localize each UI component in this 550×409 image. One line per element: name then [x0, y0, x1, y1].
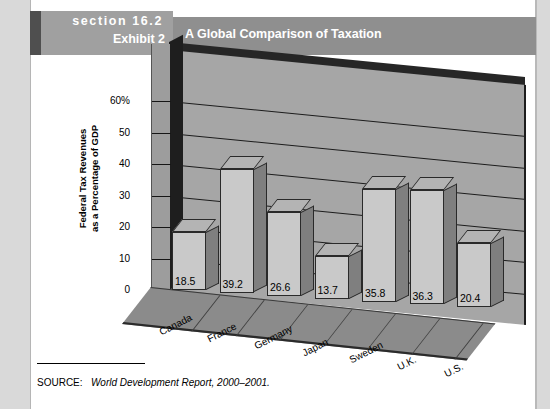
plot-left-wall	[151, 44, 170, 291]
bar-value-label: 26.6	[270, 281, 290, 293]
bar-value-label: 20.4	[460, 292, 480, 304]
bar-side-face	[396, 182, 409, 301]
bar-france	[220, 169, 254, 292]
bar-value-label: 36.3	[413, 290, 433, 302]
header-accent-stripe	[30, 11, 41, 55]
floor-divider	[235, 300, 264, 336]
y-tick-label: 0	[90, 284, 130, 295]
bar-value-label: 35.8	[365, 287, 385, 299]
bar-uk	[410, 190, 444, 304]
gridline	[169, 101, 524, 137]
bar-value-label: 39.2	[223, 278, 243, 290]
axis-tick	[152, 164, 171, 165]
axis-tick	[152, 259, 171, 260]
bar-side-face	[254, 163, 267, 293]
gridlines	[169, 50, 524, 85]
bar-value-label: 13.7	[318, 284, 338, 296]
y-tick-label: 40	[90, 158, 130, 169]
bar-front-face	[220, 169, 254, 292]
floor-divider	[191, 295, 220, 331]
y-tick-label: 10	[90, 253, 130, 264]
bar-side-face	[444, 184, 457, 305]
exhibit-page: section 16.2 Exhibit 2 A Global Comparis…	[0, 0, 550, 409]
source-publication: World Development Report, 2000–2001.	[91, 377, 270, 388]
floor-divider	[411, 319, 440, 355]
y-tick-label: 60%	[90, 95, 130, 106]
bar-value-label: 18.5	[175, 275, 195, 287]
source-prefix: SOURCE:	[37, 377, 83, 388]
axis-tick	[152, 133, 171, 134]
exhibit-number-label: Exhibit 2	[41, 32, 165, 46]
bar-side-face	[491, 237, 504, 308]
source-note: SOURCE: World Development Report, 2000–2…	[37, 377, 270, 388]
exhibit-title: A Global Comparison of Taxation	[185, 27, 382, 41]
chart: Federal Tax Revenues as a Percentage of …	[30, 55, 536, 350]
exhibit-header: section 16.2 Exhibit 2 A Global Comparis…	[30, 11, 536, 55]
axis-tick	[152, 196, 171, 197]
bar-side-face	[301, 205, 314, 295]
section-number-label: section 16.2	[41, 14, 163, 28]
floor-divider	[323, 309, 352, 345]
y-tick-label: 20	[90, 221, 130, 232]
y-axis-title-line1: Federal Tax Revenues	[77, 104, 89, 254]
bar-side-face	[206, 225, 219, 290]
source-divider	[37, 363, 145, 364]
bar-front-face	[362, 189, 396, 302]
bar-front-face	[410, 190, 444, 304]
bar-side-face	[349, 249, 362, 299]
y-tick-label: 50	[90, 127, 130, 138]
axis-tick	[152, 227, 171, 228]
gridline	[169, 133, 524, 169]
axis-tick	[152, 101, 171, 102]
plot-area: 18.539.226.613.735.836.320.4 CanadaFranc…	[138, 55, 536, 350]
y-tick-label: 30	[90, 190, 130, 201]
bar-sweden	[362, 189, 396, 302]
